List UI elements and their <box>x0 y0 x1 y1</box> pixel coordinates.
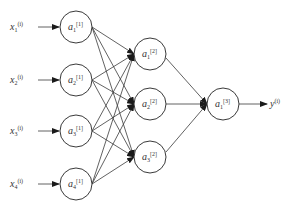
layer2-to-layer3-edges <box>166 58 207 152</box>
neural-network-diagram: x1(i) x2(i) x3(i) x4(i) a1[1] a2[1] a3[1… <box>0 0 294 208</box>
layer-3: a1[3] <box>207 88 239 120</box>
layer1-to-layer2-edges <box>92 27 134 184</box>
node-a2-1: a2[1] <box>60 64 92 96</box>
input-arrows <box>38 27 59 184</box>
node-a3-1: a3[1] <box>60 115 92 147</box>
node-a1-3: a1[3] <box>207 88 239 120</box>
node-a2-2: a2[2] <box>134 88 166 120</box>
input-x2: x2(i) <box>9 74 23 86</box>
node-a1-1: a1[1] <box>60 11 92 43</box>
input-x3: x3(i) <box>9 125 23 137</box>
layer-2: a1[2] a2[2] a3[2] <box>134 38 166 173</box>
input-x4: x4(i) <box>9 178 23 190</box>
layer-1: a1[1] a2[1] a3[1] a4[1] <box>60 11 92 200</box>
node-a3-2: a3[2] <box>134 141 166 173</box>
node-a1-2: a1[2] <box>134 38 166 70</box>
input-labels: x1(i) x2(i) x3(i) x4(i) <box>9 21 23 190</box>
node-a4-1: a4[1] <box>60 168 92 200</box>
input-x1: x1(i) <box>9 21 23 33</box>
output-y: y(i) <box>269 98 280 109</box>
